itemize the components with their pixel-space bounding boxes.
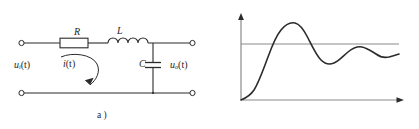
- inductor-label: L: [117, 26, 123, 36]
- resistor-symbol: [60, 38, 88, 48]
- response-curve: [241, 23, 399, 100]
- output-voltage-argument: (t): [178, 59, 187, 70]
- current-direction-arrowhead: [85, 78, 94, 85]
- output-voltage-label: uo(t): [170, 60, 188, 71]
- current-argument: (t): [66, 58, 75, 69]
- x-axis-arrowhead: [397, 97, 405, 103]
- y-axis-arrowhead: [238, 13, 244, 20]
- caption-panel-a: a ): [97, 110, 107, 120]
- inductor-symbol: [108, 38, 148, 43]
- figure-rlc-and-step-response: R L C ui(t) uo(t) i(t) a ) y(t) K 0 t b …: [0, 0, 419, 129]
- current-label: i(t): [63, 59, 75, 69]
- step-response-svg: [210, 0, 419, 129]
- input-voltage-argument: (t): [21, 59, 30, 70]
- terminal-input-top: [19, 40, 24, 45]
- terminal-output-top: [190, 40, 195, 45]
- terminal-input-bottom: [19, 90, 24, 95]
- terminal-output-bottom: [190, 90, 195, 95]
- panel-a-circuit-diagram: R L C ui(t) uo(t) i(t) a ): [0, 0, 210, 129]
- resistor-label: R: [74, 27, 80, 37]
- panel-b-response-plot: y(t) K 0 t b ): [210, 0, 419, 129]
- input-voltage-label: ui(t): [14, 60, 30, 71]
- capacitor-label: C: [139, 59, 146, 69]
- junction-node-bottom: [152, 92, 154, 94]
